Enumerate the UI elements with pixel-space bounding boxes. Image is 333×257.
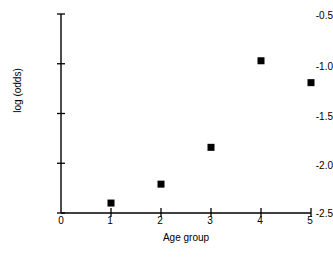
plot-area <box>0 0 333 257</box>
data-point-marker <box>158 181 165 188</box>
data-point-marker <box>108 200 115 207</box>
x-axis-title: Age group <box>61 232 311 243</box>
data-point-marker <box>308 79 315 86</box>
data-point-group <box>108 57 315 206</box>
data-point-marker <box>208 144 215 151</box>
chart-figure: log (odds) -2.5 -2.0 -1.5 -1.0 -0.5 0 1 … <box>0 0 333 257</box>
data-point-marker <box>258 57 265 64</box>
